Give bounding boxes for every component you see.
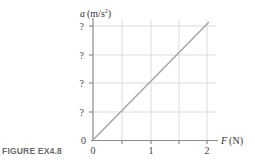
y-axis-title: a(m/s2) [80, 8, 111, 20]
x-tick-label: 0 [91, 145, 96, 156]
y-tick-label: ? [80, 107, 85, 118]
x-tick-label: 1 [149, 145, 154, 156]
x-tick-label: 2 [205, 145, 210, 156]
chart: ? ? ? ? 0 0 1 2 a(m/s2) F(N) [0, 0, 255, 164]
y-tick-label: 0 [81, 135, 86, 146]
y-tick-label: ? [80, 21, 85, 32]
x-axis-title: F(N) [220, 135, 243, 147]
y-tick-label: ? [80, 78, 85, 89]
y-tick-label: ? [80, 50, 85, 61]
